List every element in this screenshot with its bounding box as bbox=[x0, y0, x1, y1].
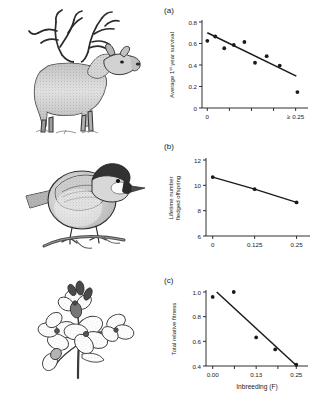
flowering-plant-illustration bbox=[4, 270, 162, 408]
data-point bbox=[296, 90, 300, 94]
data-point bbox=[295, 201, 299, 205]
scatter-plot-c: 0.40.60.81.00.000.130.25Total relative f… bbox=[160, 270, 326, 408]
x-tick-label: ≥ 0.25 bbox=[287, 113, 305, 120]
x-tick-label: 0 bbox=[211, 241, 215, 248]
panel-row-a: (a) 00.20.40.60.80≥ 0.25Average 1st year… bbox=[0, 0, 326, 136]
scatter-plot-a: 00.20.40.60.80≥ 0.25Average 1st year sur… bbox=[160, 0, 326, 136]
y-tick-label: 10 bbox=[194, 182, 201, 189]
data-point bbox=[205, 39, 209, 43]
data-point bbox=[278, 64, 282, 68]
y-tick-label: 0.6 bbox=[192, 338, 201, 345]
chart-panel-c: (c) 0.40.60.81.00.000.130.25Total relati… bbox=[160, 270, 326, 408]
inbreeding-depression-figure: (a) 00.20.40.60.80≥ 0.25Average 1st year… bbox=[0, 0, 326, 408]
x-tick-label: 0.125 bbox=[247, 241, 263, 248]
y-tick-label: 0.4 bbox=[192, 363, 201, 370]
data-point bbox=[243, 40, 247, 44]
y-tick-label: 0.8 bbox=[188, 19, 197, 26]
y-axis-label: Total relative fitness bbox=[171, 303, 177, 356]
x-tick-label: 0.13 bbox=[250, 371, 263, 378]
data-point bbox=[253, 61, 257, 65]
panel-b-tag: (b) bbox=[164, 142, 174, 151]
y-tick-label: 12 bbox=[194, 157, 201, 164]
data-point bbox=[294, 363, 298, 367]
panel-c-tag: (c) bbox=[164, 276, 174, 285]
data-point bbox=[232, 43, 236, 47]
trend-line bbox=[217, 292, 297, 366]
chart-panel-a: (a) 00.20.40.60.80≥ 0.25Average 1st year… bbox=[160, 0, 326, 136]
trend-line bbox=[207, 33, 296, 76]
data-point bbox=[253, 187, 257, 191]
data-point bbox=[254, 335, 258, 339]
chart-panel-b: (b) 68101200.1250.25Lifetime numberfledg… bbox=[160, 136, 326, 270]
x-tick-label: 0.25 bbox=[291, 241, 304, 248]
y-axis-label: Lifetime number bbox=[168, 176, 174, 219]
y-tick-label: 0.2 bbox=[188, 83, 197, 90]
data-point bbox=[222, 46, 226, 50]
y-tick-label: 0.6 bbox=[188, 40, 197, 47]
x-tick-label: 0.25 bbox=[290, 371, 303, 378]
data-point bbox=[232, 290, 236, 294]
x-axis-label: Inbreeding (F) bbox=[236, 383, 277, 391]
y-tick-label: 0 bbox=[194, 105, 198, 112]
y-tick-label: 8 bbox=[198, 207, 202, 214]
y-tick-label: 0.8 bbox=[192, 313, 201, 320]
x-tick-label: 0.00 bbox=[207, 371, 220, 378]
panel-row-b: (b) 68101200.1250.25Lifetime numberfledg… bbox=[0, 136, 326, 270]
panel-row-c: (c) 0.40.60.81.00.000.130.25Total relati… bbox=[0, 270, 326, 408]
data-point bbox=[265, 54, 269, 58]
chickadee-bird-illustration bbox=[4, 136, 162, 270]
y-tick-label: 6 bbox=[198, 233, 202, 240]
data-point bbox=[211, 175, 215, 179]
y-axis-label: Average 1st year survival bbox=[168, 32, 175, 98]
y-tick-label: 1.0 bbox=[192, 289, 201, 296]
line-plot-b: 68101200.1250.25Lifetime numberfledged o… bbox=[160, 136, 326, 270]
data-point bbox=[273, 348, 277, 352]
svg-text:Average 1st year survival: Average 1st year survival bbox=[168, 32, 175, 98]
data-point bbox=[213, 35, 217, 39]
red-deer-stag-illustration bbox=[4, 0, 162, 136]
panel-a-tag: (a) bbox=[164, 6, 174, 15]
x-tick-label: 0 bbox=[206, 113, 210, 120]
y-axis-label: fledged offspring bbox=[175, 176, 181, 220]
y-tick-label: 0.4 bbox=[188, 62, 197, 69]
data-point bbox=[211, 295, 215, 299]
